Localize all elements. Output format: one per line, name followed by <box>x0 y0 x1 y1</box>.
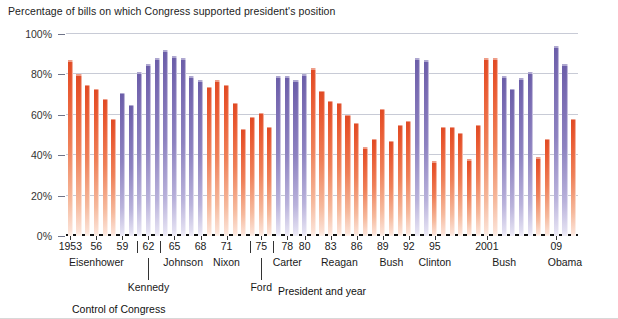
bar-cap <box>94 89 99 90</box>
x-tick-label-1965: 65 <box>169 240 181 252</box>
legend-title: Control of Congress <box>72 303 165 315</box>
bar <box>163 50 168 236</box>
year-bracket-1975 <box>250 241 274 253</box>
president-label-reagan-1984: Reagan <box>321 256 358 268</box>
y-axis-labels: 100%80%60%40%20%0% <box>0 34 60 236</box>
president-label-bush-1990: Bush <box>379 256 403 268</box>
bar-cap <box>372 139 377 140</box>
president-label-nixon-1971: Nixon <box>213 256 240 268</box>
chart-root: Percentage of bills on which Congress su… <box>0 0 618 319</box>
bar <box>137 72 142 236</box>
bar <box>328 101 333 236</box>
bar-cap <box>389 141 394 142</box>
bar <box>189 76 194 236</box>
bar <box>432 161 437 236</box>
bar-cap <box>398 125 403 126</box>
bar <box>68 60 73 236</box>
y-tick-mark-100 <box>58 34 65 35</box>
bar-cap <box>224 85 229 86</box>
bar <box>441 127 446 236</box>
bar-cap <box>328 101 333 102</box>
bar-cap <box>181 58 186 59</box>
president-label-kennedy-1962: Kennedy <box>128 281 169 293</box>
bar <box>467 159 472 236</box>
bar-cap <box>172 56 177 57</box>
bar-cap <box>380 109 385 110</box>
bar <box>111 119 116 236</box>
x-tick-label-1995: 95 <box>429 240 441 252</box>
bar-cap <box>562 64 567 65</box>
bar-cap <box>528 72 533 73</box>
bar-series <box>66 34 578 236</box>
y-tick-label-100: 100% <box>25 28 52 40</box>
bar-cap <box>285 76 290 77</box>
bar-cap <box>146 64 151 65</box>
bar <box>406 121 411 236</box>
bar-cap <box>68 60 73 61</box>
bar-cap <box>571 119 576 120</box>
bar-cap <box>120 93 125 94</box>
bar <box>311 68 316 236</box>
bar <box>120 93 125 236</box>
bar-cap <box>259 113 264 114</box>
president-label-eisenhower-1956: Eisenhower <box>69 256 124 268</box>
bar-cap <box>337 103 342 104</box>
bar-cap <box>311 68 316 69</box>
bar-cap <box>519 78 524 79</box>
y-tick-label-20: 20% <box>31 190 52 202</box>
bar <box>233 103 238 236</box>
bar-cap <box>345 115 350 116</box>
bar <box>215 80 220 236</box>
bar-cap <box>458 133 463 134</box>
bar-cap <box>432 161 437 162</box>
bar <box>476 125 481 236</box>
bar <box>554 46 559 236</box>
bar-cap <box>233 103 238 104</box>
bar-cap <box>250 117 255 118</box>
x-tick-label-1989: 89 <box>377 240 389 252</box>
x-tick-label-1992: 92 <box>403 240 415 252</box>
bar <box>458 133 463 236</box>
bar <box>415 58 420 236</box>
bar <box>250 117 255 236</box>
x-tick-label-1980: 80 <box>299 240 311 252</box>
bar-cap <box>267 127 272 128</box>
x-tick-label-1968: 68 <box>195 240 207 252</box>
bar <box>85 85 90 237</box>
president-label-clinton-1995: Clinton <box>418 256 451 268</box>
bar <box>380 109 385 236</box>
x-tick-label-1983: 83 <box>325 240 337 252</box>
bar <box>319 91 324 236</box>
bar-cap <box>302 74 307 75</box>
bar-cap <box>484 58 489 59</box>
bar-cap <box>207 87 212 88</box>
bar <box>372 139 377 236</box>
bar <box>285 76 290 236</box>
bar-cap <box>545 139 550 140</box>
x-tick-label-2009: 09 <box>550 240 562 252</box>
y-tick-mark-0 <box>58 236 65 237</box>
x-tick-label-1978: 78 <box>281 240 293 252</box>
bar-cap <box>198 80 203 81</box>
bar-cap <box>276 76 281 77</box>
y-tick-label-0: 0% <box>37 230 52 242</box>
bar <box>354 123 359 236</box>
bar <box>302 74 307 236</box>
x-tick-label-1956: 56 <box>91 240 103 252</box>
bar <box>571 119 576 236</box>
x-tick-label-1959: 59 <box>117 240 129 252</box>
bar <box>337 103 342 236</box>
bar <box>562 64 567 236</box>
bar <box>94 89 99 236</box>
bar <box>259 113 264 236</box>
bar-cap <box>163 50 168 51</box>
chart-title: Percentage of bills on which Congress su… <box>8 5 336 17</box>
bar <box>76 74 81 236</box>
president-label-bush-2003: Bush <box>492 256 516 268</box>
bar <box>241 129 246 236</box>
bar <box>146 64 151 236</box>
x-tick-label-1986: 86 <box>351 240 363 252</box>
y-tick-label-40: 40% <box>31 149 52 161</box>
bar-cap <box>155 58 160 59</box>
bar-cap <box>129 105 134 106</box>
